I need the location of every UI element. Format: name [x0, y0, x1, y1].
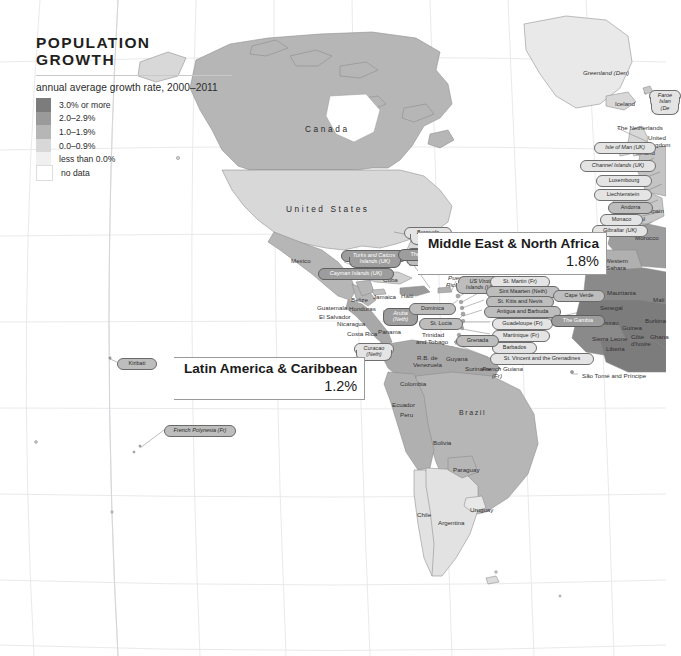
island-callout-label: Islands (UK) — [349, 257, 401, 268]
island-callout-label: Antigua and Barbuda — [484, 306, 561, 318]
island-callout-label: Guadeloupe (Fr) — [492, 318, 553, 330]
legend-subtitle: annual average growth rate, 2000–2011 — [36, 82, 232, 93]
island-callout-label: St. Vincent and the Grenadines — [490, 353, 594, 365]
region-callout-middle-east-north-africa: Middle East & North Africa 1.8% — [418, 232, 607, 275]
island-callout-label: Kiribati — [117, 358, 157, 370]
legend-row: 1.0–1.9% — [36, 125, 232, 139]
region-value: 1.2% — [184, 378, 357, 395]
island-callout-label: (Neth) — [383, 315, 418, 326]
legend-label: no data — [61, 168, 90, 178]
legend-swatch — [36, 139, 51, 153]
legend-label: 3.0% or more — [59, 100, 111, 110]
legend-label: 0.0–0.9% — [59, 141, 95, 151]
legend-row: 3.0% or more — [36, 98, 232, 112]
legend-swatch — [36, 125, 51, 139]
legend-label: 1.0–1.9% — [59, 127, 95, 137]
island-callout-label: French Polynesia (Fr) — [164, 425, 236, 437]
island-callout-label: Luxembourg — [596, 175, 652, 187]
island-callout-label: The Gambia — [551, 315, 605, 327]
legend-swatch — [36, 112, 51, 126]
island-callout-label: Cape Verde — [553, 290, 605, 302]
island-callout-label: Grenada — [456, 335, 499, 347]
legend-swatch — [36, 152, 51, 166]
region-value: 1.8% — [428, 253, 599, 270]
legend-label: less than 0.0% — [59, 154, 115, 164]
legend-label: 2.0–2.9% — [59, 113, 95, 123]
region-name: Middle East & North Africa — [428, 236, 599, 253]
legend-swatch — [36, 165, 53, 181]
region-callout-latin-america-caribbean: Latin America & Caribbean 1.2% — [174, 357, 365, 400]
legend-row: less than 0.0% — [36, 152, 232, 166]
island-callout-label: St. Lucia — [419, 318, 463, 330]
island-callout-label: Andorra — [608, 202, 653, 214]
island-callout-label: Martinique (Fr) — [492, 330, 550, 342]
title-and-legend: POPULATION GROWTH annual average growth … — [36, 34, 232, 180]
legend-row: no data — [36, 166, 232, 180]
region-name: Latin America & Caribbean — [184, 361, 357, 378]
island-callout-label: Cayman Islands (UK) — [318, 268, 394, 280]
island-callout-label: Channel Islands (UK) — [580, 160, 656, 172]
island-callout-label: Isle of Man (UK) — [594, 142, 656, 154]
legend: annual average growth rate, 2000–2011 3.… — [36, 75, 232, 180]
legend-row: 2.0–2.9% — [36, 112, 232, 126]
island-callout-label: Dominica — [409, 303, 456, 315]
island-callout-label: (De — [651, 104, 679, 115]
island-callout-label: Liechtenstein — [594, 189, 652, 201]
legend-swatch — [36, 98, 51, 112]
legend-row: 0.0–0.9% — [36, 139, 232, 153]
legend-rows: 3.0% or more2.0–2.9%1.0–1.9%0.0–0.9%less… — [36, 98, 232, 180]
page-title: POPULATION GROWTH — [36, 34, 232, 68]
